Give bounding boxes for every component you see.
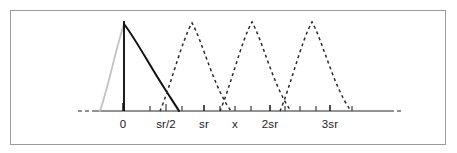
plot-canvas [0, 0, 457, 153]
x-tick-label-sr-over-2: sr/2 [156, 119, 176, 131]
replica-lobe-3-curve [280, 22, 351, 111]
x-axis-minor-ticks [150, 104, 352, 111]
x-tick-label-0: 0 [120, 119, 127, 131]
replica-lobe-2-curve [220, 22, 291, 111]
x-tick-label-3sr: 3sr [322, 119, 338, 131]
x-tick-label-x: x [232, 119, 238, 131]
main-lobe-rising-curve [100, 24, 124, 111]
x-tick-label-sr: sr [199, 119, 209, 131]
main-lobe-falling-curve [124, 24, 179, 111]
x-tick-label-2sr: 2sr [262, 119, 278, 131]
figure-container: 0 sr/2 sr x 2sr 3sr [0, 0, 457, 153]
